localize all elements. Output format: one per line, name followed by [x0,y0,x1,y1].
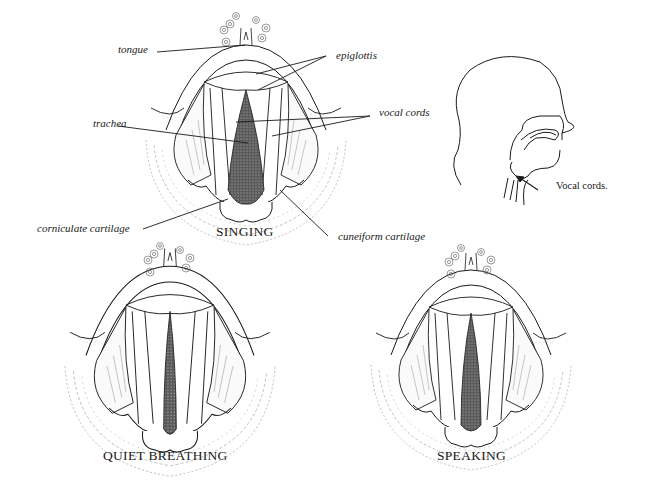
caption-singing: SINGING [216,225,274,239]
label-vocal-cords: vocal cords [379,107,430,118]
label-head-vocal-cords: Vocal cords. [556,181,608,192]
diagram-canvas [0,0,651,491]
caption-quiet-breathing: QUIET BREATHING [103,449,228,463]
label-cuneiform-cartilage: cuneiform cartilage [338,231,425,242]
label-trachea: trachea [93,118,127,129]
quiet-breathing-larynx-illustration [65,248,275,476]
label-epiglottis: epiglottis [336,50,377,61]
label-tongue: tongue [118,44,148,55]
label-corniculate-cartilage: corniculate cartilage [37,223,130,234]
caption-speaking: SPEAKING [437,449,506,463]
quiet-breathing-bubbles [144,243,194,277]
speaking-larynx-illustration [371,253,571,470]
singing-bubbles [220,13,270,47]
